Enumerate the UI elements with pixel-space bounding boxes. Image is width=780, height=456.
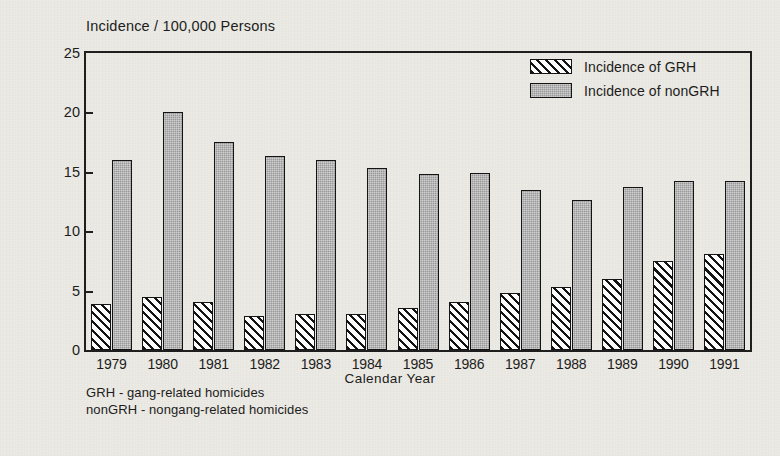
bar-grh-1981: [193, 302, 213, 350]
bar-grh-1983: [295, 314, 315, 350]
y-tick-label-0: 0: [46, 342, 80, 358]
bar-nongrh-1990: [674, 181, 694, 350]
x-tick-label-1988: 1988: [556, 356, 586, 372]
chart-legend: Incidence of GRH Incidence of nonGRH: [530, 56, 745, 104]
bar-nongrh-1987: [521, 190, 541, 350]
bar-grh-1991: [704, 254, 724, 350]
legend-item-grh: Incidence of GRH: [530, 56, 745, 77]
legend-swatch-nongrh-icon: [530, 83, 572, 98]
x-tick-label-1981: 1981: [199, 356, 229, 372]
legend-label-grh: Incidence of GRH: [584, 59, 696, 75]
bar-nongrh-1981: [214, 142, 234, 350]
footnote-nongrh: nonGRH - nongang-related homicides: [86, 401, 308, 418]
y-tick-mark-15: [84, 172, 93, 174]
y-axis-tick-labels: 0510152025: [40, 0, 80, 456]
bar-nongrh-1985: [419, 174, 439, 350]
x-tick-label-1982: 1982: [250, 356, 280, 372]
y-tick-label-15: 15: [46, 164, 80, 180]
legend-item-nongrh: Incidence of nonGRH: [530, 80, 745, 101]
bar-grh-1984: [346, 314, 366, 350]
y-tick-mark-20: [84, 112, 93, 114]
bar-grh-1979: [91, 304, 111, 350]
legend-label-nongrh: Incidence of nonGRH: [584, 83, 720, 99]
chart-title: Incidence / 100,000 Persons: [86, 18, 275, 34]
footnotes: GRH - gang-related homicides nonGRH - no…: [86, 384, 308, 418]
x-tick-label-1984: 1984: [352, 356, 382, 372]
chart-figure: Incidence / 100,000 Persons 0510152025 P…: [0, 0, 780, 456]
bar-nongrh-1991: [725, 181, 745, 350]
bar-grh-1990: [653, 261, 673, 350]
y-tick-label-10: 10: [46, 223, 80, 239]
y-tick-label-5: 5: [46, 283, 80, 299]
y-tick-mark-5: [84, 291, 93, 293]
bar-nongrh-1980: [163, 112, 183, 350]
legend-swatch-grh-icon: [530, 59, 572, 74]
x-tick-label-1987: 1987: [505, 356, 535, 372]
y-tick-label-25: 25: [46, 45, 80, 61]
x-tick-label-1985: 1985: [403, 356, 433, 372]
y-tick-label-20: 20: [46, 104, 80, 120]
bar-nongrh-1988: [572, 200, 592, 350]
x-tick-label-1986: 1986: [454, 356, 484, 372]
bar-grh-1980: [142, 297, 162, 350]
x-tick-label-1979: 1979: [96, 356, 126, 372]
x-tick-label-1989: 1989: [607, 356, 637, 372]
bar-nongrh-1982: [265, 156, 285, 350]
x-tick-label-1991: 1991: [709, 356, 739, 372]
bar-nongrh-1979: [112, 160, 132, 350]
x-tick-label-1983: 1983: [301, 356, 331, 372]
bar-grh-1987: [500, 293, 520, 350]
bar-grh-1985: [398, 308, 418, 350]
bar-grh-1989: [602, 279, 622, 350]
bar-nongrh-1989: [623, 187, 643, 350]
footnote-grh: GRH - gang-related homicides: [86, 384, 308, 401]
bar-grh-1986: [449, 302, 469, 350]
bar-nongrh-1986: [470, 173, 490, 350]
x-tick-label-1990: 1990: [658, 356, 688, 372]
bar-grh-1982: [244, 316, 264, 350]
bar-nongrh-1983: [316, 160, 336, 350]
x-tick-label-1980: 1980: [147, 356, 177, 372]
bar-nongrh-1984: [367, 168, 387, 350]
bar-grh-1988: [551, 287, 571, 350]
y-tick-mark-10: [84, 231, 93, 233]
